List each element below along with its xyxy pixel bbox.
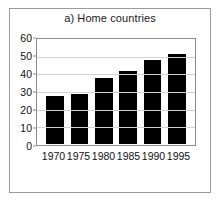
y-tick-label: 20 xyxy=(20,104,32,116)
x-tick-label: 1980 xyxy=(91,150,116,162)
x-tick-label: 1990 xyxy=(141,150,166,162)
y-tick-mark xyxy=(33,146,36,147)
x-axis: 197019751980198519901995 xyxy=(36,150,196,162)
gridline xyxy=(37,57,195,58)
bar[interactable] xyxy=(46,96,64,144)
bar[interactable] xyxy=(119,71,137,144)
y-tick-mark xyxy=(33,128,36,129)
y-tick-label: 60 xyxy=(20,32,32,44)
bar[interactable] xyxy=(144,60,162,144)
bar[interactable] xyxy=(95,78,113,144)
y-tick-label: 10 xyxy=(20,122,32,134)
y-tick-label: 40 xyxy=(20,68,32,80)
y-tick-label: 50 xyxy=(20,50,32,62)
bar[interactable] xyxy=(168,54,186,144)
x-tick-label: 1985 xyxy=(116,150,141,162)
y-tick-mark xyxy=(33,73,36,74)
gridline xyxy=(37,110,195,111)
y-tick-label: 0 xyxy=(26,140,32,152)
gridline xyxy=(37,92,195,93)
bar[interactable] xyxy=(71,94,89,144)
y-tick-mark xyxy=(33,55,36,56)
chart-title: a) Home countries xyxy=(0,12,220,24)
plot-area xyxy=(36,38,196,146)
x-tick-label: 1995 xyxy=(166,150,191,162)
gridline xyxy=(37,74,195,75)
x-tick-label: 1970 xyxy=(41,150,66,162)
y-tick-mark xyxy=(33,92,36,93)
x-tick-label: 1975 xyxy=(66,150,91,162)
plot-wrapper: 0102030405060 xyxy=(36,38,196,146)
y-tick-label: 30 xyxy=(20,86,32,98)
y-tick-mark xyxy=(33,109,36,110)
chart-figure: a) Home countries 0102030405060 19701975… xyxy=(0,0,220,201)
y-tick-mark xyxy=(33,38,36,39)
gridline xyxy=(37,127,195,128)
